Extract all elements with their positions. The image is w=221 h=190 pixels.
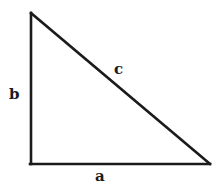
- triangle-drawing: [0, 0, 221, 190]
- side-label-c: c: [114, 62, 123, 77]
- hypotenuse-line: [31, 13, 210, 164]
- side-label-b: b: [9, 87, 20, 102]
- side-label-a: a: [95, 169, 105, 184]
- triangle-figure: b c a: [0, 0, 221, 190]
